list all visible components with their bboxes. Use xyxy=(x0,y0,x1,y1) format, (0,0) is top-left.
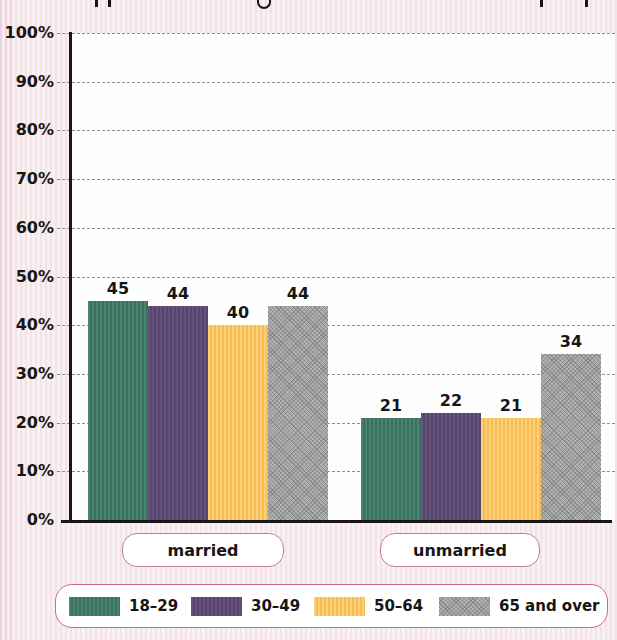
bar-unmarried-18–29 xyxy=(361,418,421,520)
legend-swatch-50–64 xyxy=(314,597,365,616)
category-label-married: married xyxy=(122,533,284,567)
legend-item-30–49: 30–49 xyxy=(191,585,300,627)
gridline-100% xyxy=(57,33,615,34)
y-tick-label-90%: 90% xyxy=(0,73,54,91)
legend-label: 65 and over xyxy=(499,597,600,615)
bar-value-married-18–29: 45 xyxy=(88,279,148,298)
y-tick-label-60%: 60% xyxy=(0,219,54,237)
cropped-title-descender xyxy=(585,0,588,7)
y-axis-line xyxy=(69,32,72,523)
bar-unmarried-50–64 xyxy=(481,418,541,520)
bar-unmarried-30–49 xyxy=(421,413,481,520)
legend-label: 50–64 xyxy=(374,597,423,615)
y-tick-label-80%: 80% xyxy=(0,121,54,139)
legend-swatch-18–29 xyxy=(69,597,120,616)
y-tick-label-10%: 10% xyxy=(0,462,54,480)
bar-value-unmarried-30–49: 22 xyxy=(421,391,481,410)
bar-married-50–64 xyxy=(208,325,268,520)
legend-swatch-65 and over xyxy=(439,597,490,616)
y-tick-label-0%: 0% xyxy=(0,511,54,529)
cropped-title-descender xyxy=(257,0,271,9)
bar-value-married-30–49: 44 xyxy=(148,284,208,303)
y-tick-label-70%: 70% xyxy=(0,170,54,188)
y-tick-label-40%: 40% xyxy=(0,316,54,334)
legend: 18–2930–4950–6465 and over xyxy=(55,584,608,628)
y-tick-label-100%: 100% xyxy=(0,24,54,42)
bar-married-30–49 xyxy=(148,306,208,520)
bar-unmarried-65 and over xyxy=(541,354,601,520)
y-tick-label-20%: 20% xyxy=(0,414,54,432)
bar-value-married-50–64: 40 xyxy=(208,303,268,322)
bar-married-65 and over xyxy=(268,306,328,520)
gridline-60% xyxy=(57,228,615,229)
bar-value-unmarried-18–29: 21 xyxy=(361,396,421,415)
y-tick-label-30%: 30% xyxy=(0,365,54,383)
gridline-80% xyxy=(57,130,615,131)
legend-item-65 and over: 65 and over xyxy=(439,585,600,627)
cropped-title-descender xyxy=(95,0,98,7)
page: { "chart_data": { "type": "bar", "catego… xyxy=(0,0,617,640)
legend-item-18–29: 18–29 xyxy=(69,585,178,627)
legend-item-50–64: 50–64 xyxy=(314,585,423,627)
legend-label: 30–49 xyxy=(251,597,300,615)
bar-value-unmarried-65 and over: 34 xyxy=(541,332,601,351)
gridline-50% xyxy=(57,277,615,278)
gridline-70% xyxy=(57,179,615,180)
cropped-title-descender xyxy=(540,0,543,7)
bar-married-18–29 xyxy=(88,301,148,520)
cropped-title-descender xyxy=(108,0,111,7)
y-tick-label-50%: 50% xyxy=(0,268,54,286)
category-label-unmarried: unmarried xyxy=(380,533,540,567)
legend-label: 18–29 xyxy=(129,597,178,615)
gridline-90% xyxy=(57,82,615,83)
legend-swatch-30–49 xyxy=(191,597,242,616)
x-axis-line xyxy=(61,520,612,523)
bar-value-unmarried-50–64: 21 xyxy=(481,396,541,415)
bar-value-married-65 and over: 44 xyxy=(268,284,328,303)
